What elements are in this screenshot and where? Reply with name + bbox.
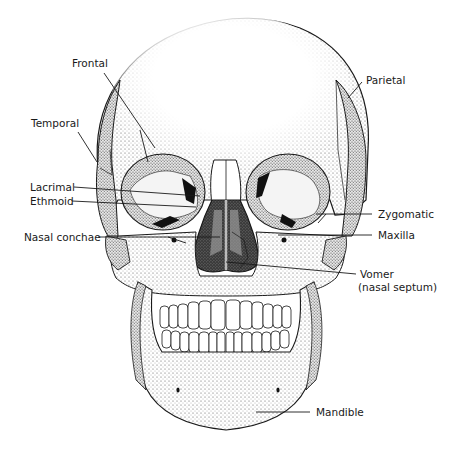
mental-foramen-right (276, 387, 279, 392)
mental-foramen-left (176, 387, 179, 392)
label-zygomatic: Zygomatic (378, 208, 434, 220)
nasal-cavity (194, 200, 259, 272)
orbit-left (121, 154, 205, 230)
label-lacrimal: Lacrimal (30, 181, 75, 193)
orbit-right (246, 154, 330, 230)
label-temporal: Temporal (31, 117, 79, 129)
label-vomer-subtitle: (nasal septum) (358, 281, 437, 293)
leader-temporal (78, 132, 97, 162)
label-vomer: Vomer (360, 268, 394, 280)
label-nasal-conchae: Nasal conchae (24, 231, 101, 243)
lower-teeth (162, 330, 289, 354)
zygomatic-left (106, 236, 131, 270)
label-frontal: Frontal (72, 57, 108, 69)
label-mandible: Mandible (316, 406, 364, 418)
label-ethmoid: Ethmoid (30, 195, 74, 207)
label-parietal: Parietal (366, 74, 405, 86)
upper-teeth (160, 300, 291, 330)
label-maxilla: Maxilla (378, 229, 415, 241)
nasal-bones (211, 160, 241, 205)
